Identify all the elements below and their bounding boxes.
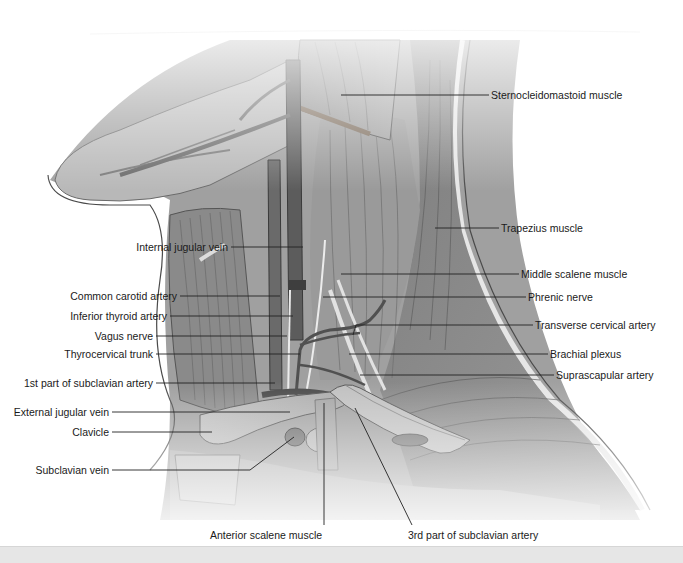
label-common-carotid-artery: Common carotid artery — [70, 290, 177, 302]
label-subclavian-vein: Subclavian vein — [35, 464, 109, 476]
label-suprascapular-artery: Suprascapular artery — [556, 369, 653, 381]
label-trapezius-muscle: Trapezius muscle — [501, 222, 583, 234]
label-clavicle: Clavicle — [72, 426, 109, 438]
label-internal-jugular-vein: Internal jugular vein — [136, 241, 228, 253]
label-anterior-scalene-muscle: Anterior scalene muscle — [210, 529, 322, 541]
label-transverse-cervical-artery: Transverse cervical artery — [535, 319, 655, 331]
label-brachial-plexus: Brachial plexus — [550, 348, 621, 360]
label-external-jugular-vein: External jugular vein — [14, 406, 109, 418]
label-inferior-thyroid-artery: Inferior thyroid artery — [70, 310, 167, 322]
label-1st-part-subclavian-artery: 1st part of subclavian artery — [24, 377, 153, 389]
label-thyrocervical-trunk: Thyrocervical trunk — [64, 348, 153, 360]
label-3rd-part-subclavian-artery: 3rd part of subclavian artery — [408, 529, 538, 541]
label-middle-scalene-muscle: Middle scalene muscle — [521, 268, 627, 280]
label-phrenic-nerve: Phrenic nerve — [528, 291, 593, 303]
bottom-bar — [0, 546, 683, 563]
label-sternocleidomastoid-muscle: Sternocleidomastoid muscle — [491, 89, 622, 101]
label-vagus-nerve: Vagus nerve — [95, 330, 153, 342]
